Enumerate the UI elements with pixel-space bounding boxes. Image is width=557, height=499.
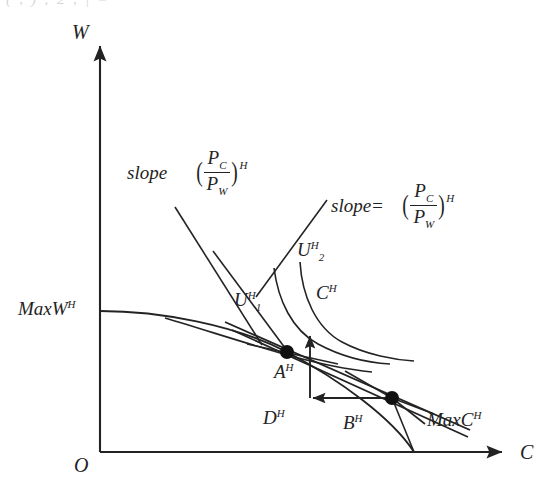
quantity-label-d-sup: H [277,407,285,419]
slope-left-den-sub: W [218,185,227,197]
curve-label-ch-sup: H [329,282,337,294]
slope-right-text: slope= [331,196,384,215]
curve-label-u2-sup: H [311,239,319,251]
slope-left-numerator: PC [204,148,231,173]
curve-label-ch: CH [316,283,337,302]
quantity-label-b: BH [343,413,363,432]
slope-right-denominator: PW [410,206,437,230]
slope-left-exponent: H [239,159,247,171]
curve-label-u2-sub: 2 [319,251,325,263]
figure-canvas: ( , ) ; 2 , | = [0,0,557,499]
slope-left-num-sub: C [219,159,226,171]
slope-right-num-sub: C [426,192,433,204]
quantity-label-d: DH [263,408,285,427]
slope-right-exponent: H [446,192,454,204]
max-c-text: MaxC [427,409,473,430]
slope-left-fraction: PC PW [204,148,231,197]
slope-right-den-base: P [413,206,425,227]
max-w-text: MaxW [18,298,68,319]
consumption-curve-ch [300,262,414,361]
max-c-sup: H [473,409,481,421]
slope-left-text: slope [127,163,167,182]
slope-left-den-base: P [207,173,219,194]
point-label-a-sup: H [286,361,294,373]
curve-label-u1-sup: H [248,289,256,301]
slope-annotation-left: slope ( PC PW )H [127,148,247,197]
slope-right-numerator: PC [410,181,437,206]
quantity-label-d-base: D [263,407,277,428]
origin-label: O [74,455,88,475]
curve-label-u1: UH1 [234,290,261,313]
max-w-sup: H [68,298,76,310]
max-c-label: MaxCH [427,410,481,429]
point-a-marker [280,345,294,359]
curve-label-u2: UH2 [297,240,324,263]
curve-label-u2-base: U [297,239,311,260]
slope-annotation-right: slope= ( PC PW )H [331,181,454,230]
curve-label-u1-sub: 1 [256,301,262,313]
point-label-a-base: A [274,361,286,382]
quantity-label-b-base: B [343,412,355,433]
point-label-a: AH [274,362,294,381]
slope-right-fraction: PC PW [410,181,437,230]
axis-label-w: W [72,22,89,42]
axis-label-c: C [520,442,533,462]
slope-right-paren-close: ) [438,192,444,219]
slope-right-paren-open: ( [403,192,409,219]
slope-left-denominator: PW [204,173,231,197]
point-b-marker [385,391,399,405]
slope-left-paren-close: ) [232,159,238,186]
curve-label-ch-base: C [316,282,329,303]
quantity-label-b-sup: H [355,412,363,424]
slope-right-num-base: P [414,180,426,201]
slope-left-num-base: P [208,147,220,168]
slope-right-den-sub: W [425,218,434,230]
slope-left-paren-open: ( [196,159,202,186]
ppf-curve [100,311,414,452]
curve-label-u1-base: U [234,289,248,310]
max-w-label: MaxWH [18,299,76,318]
